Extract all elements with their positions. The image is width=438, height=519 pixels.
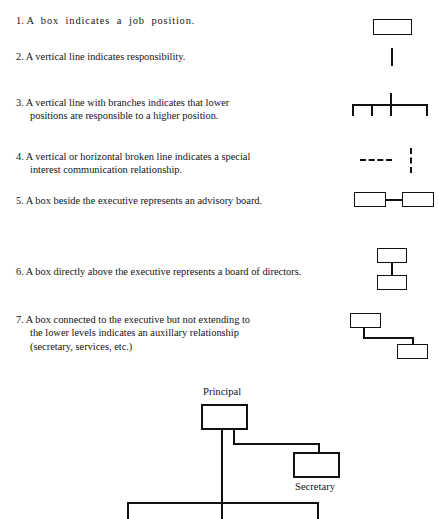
principal-label: Principal [203,386,241,398]
principal-trunk [221,430,223,503]
secretary-box [293,452,340,478]
secretary-elbow-run [233,443,320,445]
legend-page: 1. A box indicates a job position. 2. A … [0,0,438,519]
principal-box [201,404,248,430]
secretary-label: Secretary [295,481,335,493]
org-chart: Principal Secretary [0,0,438,519]
level-bar [127,502,319,504]
level-drop-left [127,502,129,519]
level-drop-right [317,502,319,519]
level-drop-center [221,502,223,519]
